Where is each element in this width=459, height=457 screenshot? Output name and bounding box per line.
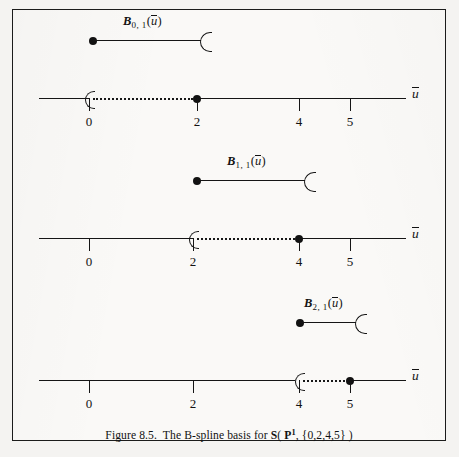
basis-label-subscript: 2, 1 bbox=[313, 302, 328, 312]
basis-function-label-B01: B0, 1(u) bbox=[123, 14, 162, 30]
axis-tick-label-4-B21: 4 bbox=[289, 396, 309, 412]
axis-dotted-support-B21 bbox=[303, 380, 349, 382]
basis-label-B: B bbox=[227, 154, 236, 168]
basis-function-glyph-B21: B2, 1(u) bbox=[296, 310, 376, 336]
basis-label-arg-u: u bbox=[255, 155, 261, 168]
figure-root: B0, 1(u) 0 2 4 5 u bbox=[0, 0, 459, 457]
basis-function-glyph-B11: B1, 1(u) bbox=[193, 168, 323, 194]
caption-knot-vector: {0,2,4,5} bbox=[302, 429, 346, 442]
basis-support-segment-B11 bbox=[197, 180, 305, 181]
axis-tick-2-B11 bbox=[193, 238, 194, 251]
axis-knot-bracket-4-B21 bbox=[295, 373, 305, 391]
axis-line-left-B11 bbox=[39, 238, 193, 239]
basis-function-label-B21: B2, 1(u) bbox=[304, 296, 343, 312]
basis-function-glyph-B01: B0, 1(u) bbox=[89, 28, 219, 54]
axis-line-right-B11 bbox=[299, 238, 406, 239]
axis-tick-4-B11 bbox=[299, 238, 300, 251]
caption-description: The B-spline basis for bbox=[163, 429, 268, 442]
axis-variable-label-B11: u bbox=[412, 226, 419, 242]
figure-frame: B0, 1(u) 0 2 4 5 u bbox=[12, 9, 446, 441]
basis-label-arg-u: u bbox=[151, 15, 157, 28]
axis-line-left-B21 bbox=[39, 380, 295, 381]
axis-knot-bracket-2-B11 bbox=[189, 231, 199, 249]
axis-tick-label-5-B11: 5 bbox=[340, 254, 360, 270]
axis-tick-4-B01 bbox=[299, 98, 300, 111]
axis-B21: 0 2 4 5 u bbox=[13, 368, 445, 414]
axis-tick-5-B01 bbox=[350, 98, 351, 111]
basis-support-segment-B01 bbox=[93, 40, 201, 41]
axis-dotted-support-B01 bbox=[93, 98, 193, 100]
axis-B11: 0 2 4 5 u bbox=[13, 226, 445, 272]
basis-support-end-bracket-B11 bbox=[304, 172, 316, 192]
axis-dotted-support-B11 bbox=[197, 238, 295, 240]
axis-tick-0-B01 bbox=[89, 98, 90, 111]
axis-variable-label-B21: u bbox=[412, 368, 419, 384]
axis-tick-label-2-B01: 2 bbox=[187, 114, 207, 130]
axis-line-left-B01 bbox=[39, 98, 89, 99]
axis-variable-label-B01: u bbox=[412, 86, 419, 102]
basis-label-B: B bbox=[304, 296, 313, 310]
axis-tick-label-4-B11: 4 bbox=[289, 254, 309, 270]
axis-tick-label-0-B11: 0 bbox=[79, 254, 99, 270]
axis-tick-label-0-B01: 0 bbox=[79, 114, 99, 130]
axis-tick-label-5-B01: 5 bbox=[340, 114, 360, 130]
caption-figure-number: Figure 8.5. bbox=[105, 429, 157, 442]
axis-line-right-B21 bbox=[350, 380, 406, 381]
axis-line-right-B01 bbox=[197, 98, 406, 99]
axis-tick-label-2-B11: 2 bbox=[183, 254, 203, 270]
axis-tick-4-B21 bbox=[299, 380, 300, 393]
basis-support-end-bracket-B21 bbox=[355, 314, 367, 334]
axis-tick-label-4-B01: 4 bbox=[289, 114, 309, 130]
axis-tick-5-B11 bbox=[350, 238, 351, 251]
axis-B01: 0 2 4 5 u bbox=[13, 86, 445, 132]
axis-tick-0-B11 bbox=[89, 238, 90, 251]
axis-tick-2-B21 bbox=[193, 380, 194, 393]
figure-caption: Figure 8.5. The B-spline basis for S( P1… bbox=[13, 428, 445, 442]
basis-label-B: B bbox=[123, 14, 132, 28]
basis-label-subscript: 0, 1 bbox=[132, 20, 147, 30]
caption-comma: , bbox=[296, 429, 299, 442]
basis-support-segment-B21 bbox=[300, 322, 356, 323]
caption-open-paren: ( bbox=[277, 429, 281, 442]
axis-tick-0-B21 bbox=[89, 380, 90, 393]
basis-support-end-bracket-B01 bbox=[200, 32, 212, 52]
caption-close-paren: ) bbox=[349, 429, 353, 442]
axis-tick-label-0-B21: 0 bbox=[79, 396, 99, 412]
axis-tick-2-B01 bbox=[197, 98, 198, 111]
basis-function-label-B11: B1, 1(u) bbox=[227, 154, 266, 170]
axis-tick-5-B21 bbox=[350, 380, 351, 393]
axis-knot-bracket-0-B01 bbox=[85, 91, 95, 109]
axis-tick-label-2-B21: 2 bbox=[183, 396, 203, 412]
basis-label-subscript: 1, 1 bbox=[236, 160, 251, 170]
axis-tick-label-5-B21: 5 bbox=[340, 396, 360, 412]
basis-label-arg-u: u bbox=[332, 297, 338, 310]
